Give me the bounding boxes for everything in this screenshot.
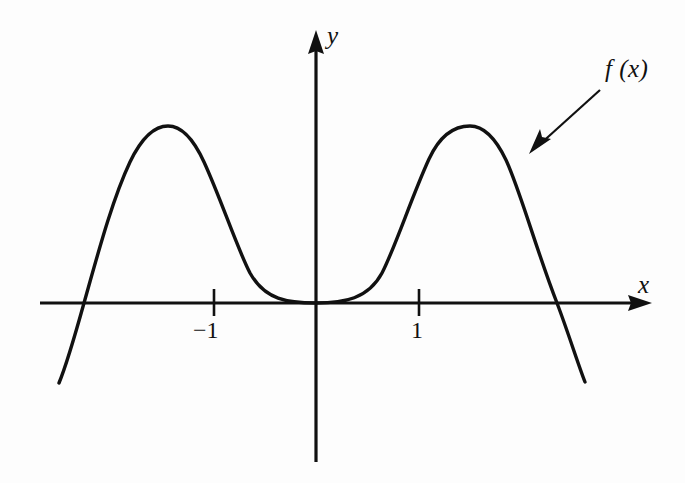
x-axis-label: x — [638, 272, 649, 297]
function-graph-figure: y x −1 1 f (x) — [0, 0, 685, 483]
function-curve-label: f (x) — [605, 56, 648, 81]
graph-canvas — [0, 0, 685, 483]
function-curve — [59, 126, 585, 383]
y-axis-arrow-icon — [308, 30, 324, 54]
annotation-leader-line — [538, 90, 600, 146]
y-axis-label: y — [327, 23, 338, 48]
x-tick-label-neg1: −1 — [193, 318, 219, 342]
x-tick-label-pos1: 1 — [411, 318, 423, 342]
annotation-arrow-icon — [529, 129, 551, 154]
